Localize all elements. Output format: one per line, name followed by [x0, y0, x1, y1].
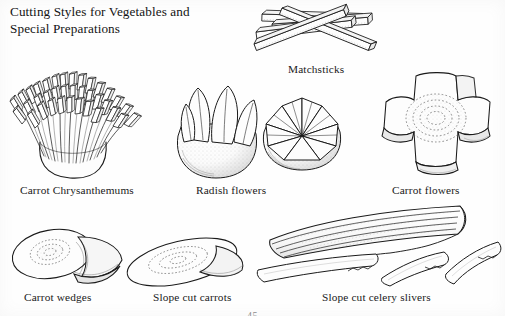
- figure-slope-cut-carrots: [120, 232, 258, 294]
- caption-radish-flowers: Radish flowers: [196, 184, 266, 197]
- page-number: 45: [0, 310, 505, 316]
- caption-carrot-chrysanthemums: Carrot Chrysanthemums: [20, 184, 134, 197]
- figure-slope-cut-celery-slivers: [254, 204, 504, 290]
- caption-slope-cut-celery-slivers: Slope cut celery slivers: [322, 291, 431, 304]
- page-title-line-1: Cutting Styles for Vegetables and: [10, 4, 190, 19]
- figure-radish-flowers: [170, 78, 360, 182]
- figure-carrot-chrysanthemums: [8, 64, 148, 186]
- caption-matchsticks: Matchsticks: [288, 63, 344, 76]
- figure-carrot-wedges: [8, 222, 130, 296]
- caption-carrot-wedges: Carrot wedges: [24, 291, 92, 304]
- illustration-page: Cutting Styles for Vegetables and Specia…: [0, 0, 505, 316]
- figure-carrot-flowers: [372, 66, 504, 178]
- figure-matchsticks: [248, 2, 390, 60]
- caption-carrot-flowers: Carrot flowers: [392, 184, 460, 197]
- caption-slope-cut-carrots: Slope cut carrots: [153, 291, 231, 304]
